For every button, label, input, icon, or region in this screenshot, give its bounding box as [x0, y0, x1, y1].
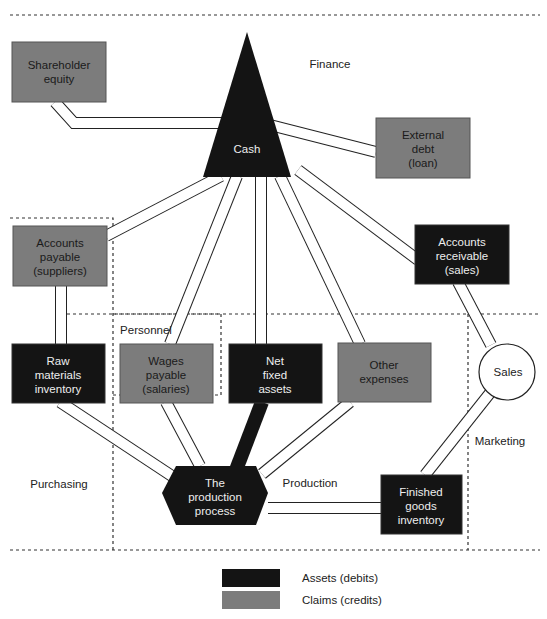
wages-payable-line1: Wages — [148, 355, 184, 367]
node-shareholder-equity: Shareholder equity — [12, 42, 106, 102]
legend: Assets (debits) Claims (credits) — [222, 567, 382, 611]
accounts-payable-line2: payable — [40, 251, 80, 263]
production-process-line1: The — [205, 477, 225, 489]
node-cash: Cash — [203, 32, 291, 177]
net-fixed-assets-line3: assets — [258, 383, 291, 395]
shareholder-equity-line2: equity — [44, 73, 75, 85]
external-debt-line2: debt — [412, 143, 435, 155]
external-debt-line1: External — [402, 129, 444, 141]
node-accounts-receivable: Accounts receivable (sales) — [415, 225, 509, 284]
legend-swatch-claims — [222, 591, 280, 609]
region-label-personnel: Personnel — [120, 324, 172, 336]
wages-payable-line2: payable — [146, 369, 186, 381]
finished-goods-line3: inventory — [398, 514, 445, 526]
cash-flow-diagram: Cash Shareholder equity External debt (l… — [0, 0, 547, 619]
node-other-expenses: Other expenses — [338, 343, 431, 402]
finished-goods-line1: Finished — [399, 486, 442, 498]
node-production-process: The production process — [162, 466, 268, 525]
other-expenses-line2: expenses — [359, 373, 408, 385]
node-wages-payable: Wages payable (salaries) — [120, 344, 213, 403]
raw-materials-line2: materials — [35, 369, 82, 381]
net-fixed-assets-line1: Net — [266, 355, 285, 367]
external-debt-line3: (loan) — [408, 157, 438, 169]
region-label-marketing: Marketing — [475, 435, 526, 447]
accounts-payable-line3: (suppliers) — [33, 265, 87, 277]
accounts-receivable-line2: receivable — [436, 250, 488, 262]
node-sales: Sales — [479, 344, 535, 400]
node-net-fixed-assets: Net fixed assets — [229, 344, 322, 403]
finished-goods-line2: goods — [405, 500, 437, 512]
production-process-line2: production — [188, 491, 242, 503]
raw-materials-line3: inventory — [35, 383, 82, 395]
cash-label: Cash — [234, 143, 261, 155]
production-process-line3: process — [195, 505, 236, 517]
legend-swatch-assets — [222, 569, 280, 587]
node-raw-materials: Raw materials inventory — [12, 344, 105, 403]
accounts-receivable-line1: Accounts — [438, 236, 486, 248]
region-label-finance: Finance — [310, 58, 351, 70]
wages-payable-line3: (salaries) — [142, 383, 189, 395]
other-expenses-line1: Other — [370, 359, 399, 371]
accounts-receivable-line3: (sales) — [445, 264, 480, 276]
cash-triangle-shape — [203, 32, 291, 177]
legend-item-claims: Claims (credits) — [222, 589, 382, 611]
shareholder-equity-line1: Shareholder — [28, 59, 91, 71]
accounts-payable-line1: Accounts — [36, 237, 84, 249]
raw-materials-line1: Raw — [46, 355, 70, 367]
sales-label: Sales — [494, 366, 523, 378]
node-external-debt: External debt (loan) — [376, 118, 470, 178]
node-accounts-payable: Accounts payable (suppliers) — [13, 226, 107, 286]
legend-item-assets: Assets (debits) — [222, 567, 382, 589]
region-label-purchasing: Purchasing — [30, 478, 88, 490]
pipe-fixed-production-solid — [236, 402, 262, 470]
legend-label-claims: Claims (credits) — [302, 594, 382, 606]
region-label-production: Production — [283, 477, 338, 489]
legend-label-assets: Assets (debits) — [302, 572, 378, 584]
net-fixed-assets-line2: fixed — [263, 369, 287, 381]
node-finished-goods: Finished goods inventory — [381, 475, 462, 534]
